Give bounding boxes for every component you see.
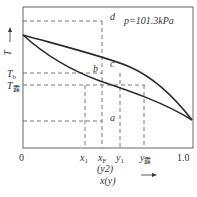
- y-axis-label: T: [3, 50, 13, 56]
- point-a: a: [110, 113, 115, 123]
- bubble-point-curve: [23, 35, 192, 120]
- x-tick-y1: y1: [116, 153, 124, 166]
- x-axis-label: x(y): [100, 176, 116, 186]
- x-max-label: 1.0: [177, 153, 190, 163]
- pressure-label: p=101.3kPa: [124, 16, 174, 26]
- y-tick-tdew: T露: [7, 81, 20, 94]
- origin-label: 0: [19, 153, 24, 163]
- point-b: b: [93, 64, 98, 74]
- x-axis-arrowhead: [152, 173, 157, 177]
- plot-frame: [23, 7, 193, 148]
- point-c: c: [110, 59, 114, 69]
- t-axis-arrowhead: [8, 27, 12, 32]
- x-tick-x1: x1: [80, 153, 88, 166]
- dew-point-curve: [23, 35, 192, 120]
- x-tick-ydew: y露: [140, 153, 151, 166]
- point-d: d: [110, 12, 115, 22]
- x-tick-y2: (y2): [97, 164, 113, 174]
